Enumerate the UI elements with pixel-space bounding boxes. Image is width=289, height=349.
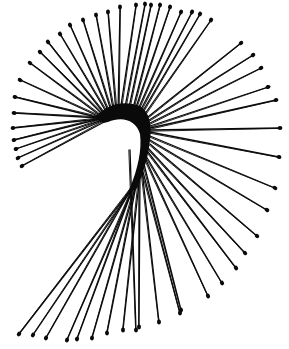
bobby-pins-artwork bbox=[0, 0, 289, 349]
bobby-pin-spiral-image bbox=[0, 0, 289, 349]
background bbox=[0, 0, 289, 349]
